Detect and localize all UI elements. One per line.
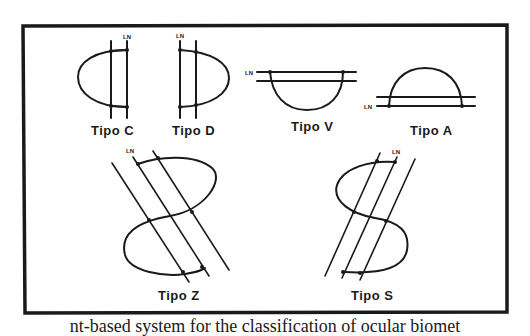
tipo-s-point [352, 210, 356, 214]
tipo-s-ln-label: LN [392, 149, 400, 155]
tipo-c-point [109, 49, 113, 53]
tipo-c-point [125, 48, 129, 52]
tipo-d-point [194, 50, 198, 54]
tipo-a-point [460, 104, 464, 108]
tipo-d-point [194, 103, 198, 107]
tipo-c-curve [78, 50, 127, 107]
tipo-c-label: Tipo C [91, 123, 134, 138]
tipo-s-point [384, 219, 388, 223]
diagram-tipo-z: LN Tipo Z [112, 148, 229, 303]
diagram-tipo-a: LN Tipo A [364, 68, 475, 138]
tipo-s-label: Tipo S [351, 288, 393, 303]
tipo-z-point [136, 162, 140, 166]
tipo-d-curve [180, 50, 229, 107]
tipo-a-point [387, 104, 391, 108]
tipo-a-ln-label: LN [364, 104, 372, 110]
diagram-tipo-d: LN Tipo D [172, 33, 229, 138]
tipo-v-label: Tipo V [291, 119, 333, 134]
figure-caption-partial: nt-based system for the classification o… [0, 316, 530, 336]
tipo-z-ln-label: LN [126, 148, 134, 154]
tipo-c-point [125, 105, 129, 109]
diagram-tipo-c: LN Tipo C [78, 34, 134, 138]
tipo-z-point [156, 156, 160, 160]
tipo-z-point [147, 218, 151, 222]
tipo-z-point [181, 270, 185, 274]
tipo-a-curve [389, 68, 462, 106]
tipo-z-point [200, 265, 204, 269]
tipo-d-ln-label: LN [176, 33, 184, 39]
tipo-c-join-top [111, 50, 127, 51]
tipo-v-point [268, 70, 272, 74]
tipo-v-point [341, 70, 345, 74]
tipo-d-point [178, 48, 182, 52]
tipo-z-line-1 [112, 163, 189, 282]
tipo-d-point [178, 105, 182, 109]
tipo-z-label: Tipo Z [158, 288, 200, 303]
tipo-v-curve [270, 72, 343, 110]
tipo-s-point [358, 271, 362, 275]
tipo-s-point [393, 160, 397, 164]
tipo-d-label: Tipo D [172, 123, 215, 138]
tipo-v-ln-label: LN [245, 70, 253, 76]
tipo-a-label: Tipo A [410, 123, 453, 138]
diagram-tipo-v: LN Tipo V [245, 70, 356, 134]
tipo-c-point [109, 104, 113, 108]
tipo-s-point [375, 159, 379, 163]
tipo-s-line-1 [325, 153, 380, 276]
tipo-s-point [341, 270, 345, 274]
diagram-tipo-s: LN Tipo S [325, 149, 415, 303]
tipo-z-line-ln [133, 157, 209, 276]
tipo-c-join-bottom [111, 106, 127, 107]
tipo-c-ln-label: LN [123, 34, 131, 40]
tipo-z-point [190, 210, 194, 214]
